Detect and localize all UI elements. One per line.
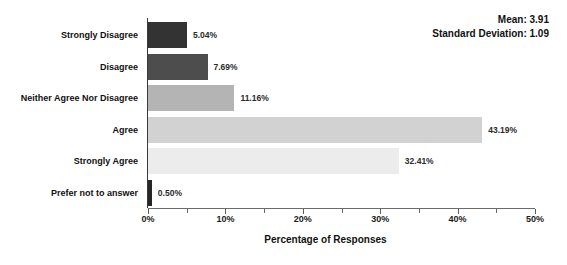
bar-value-label: 32.41% (405, 148, 434, 174)
x-axis-minor-tick (187, 209, 188, 213)
bar-row: Neither Agree Nor Disagree11.16% (0, 85, 567, 111)
bar-row: Strongly Agree32.41% (0, 148, 567, 174)
bar-row: Prefer not to answer0.50% (0, 180, 567, 206)
x-axis-tick-label: 40% (449, 214, 467, 224)
bar-row: Disagree7.69% (0, 54, 567, 80)
bar-row: Strongly Disagree5.04% (0, 22, 567, 48)
x-axis-tick-label: 30% (371, 214, 389, 224)
y-axis-line (147, 18, 148, 208)
bar (148, 54, 208, 80)
x-axis-minor-tick (419, 209, 420, 213)
bar-value-label: 11.16% (240, 85, 268, 111)
category-label: Strongly Agree (0, 148, 138, 174)
bar (148, 148, 399, 174)
bar-row: Agree43.19% (0, 117, 567, 143)
x-axis-tick-label: 50% (526, 214, 544, 224)
category-label: Prefer not to answer (0, 180, 138, 206)
x-axis-minor-tick (264, 209, 265, 213)
x-axis-minor-tick (342, 209, 343, 213)
category-label: Agree (0, 117, 138, 143)
x-axis-tick-label: 0% (141, 214, 154, 224)
category-label: Neither Agree Nor Disagree (0, 85, 138, 111)
x-axis-tick-label: 10% (216, 214, 234, 224)
x-axis-minor-tick (496, 209, 497, 213)
bar-value-label: 5.04% (193, 22, 217, 48)
bar-value-label: 0.50% (158, 180, 182, 206)
bar-value-label: 7.69% (214, 54, 238, 80)
x-axis-title: Percentage of Responses (0, 234, 567, 245)
x-axis-tick-label: 20% (294, 214, 312, 224)
bar (148, 117, 482, 143)
bar (148, 85, 234, 111)
category-label: Strongly Disagree (0, 22, 138, 48)
bar (148, 180, 152, 206)
bar (148, 22, 187, 48)
category-label: Disagree (0, 54, 138, 80)
x-axis-title-text: Percentage of Responses (264, 234, 386, 245)
survey-bar-chart: Mean: 3.91 Standard Deviation: 1.09 Stro… (0, 0, 567, 265)
bar-value-label: 43.19% (488, 117, 517, 143)
